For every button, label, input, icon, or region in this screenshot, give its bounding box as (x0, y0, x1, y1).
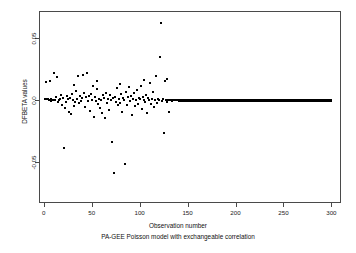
data-point (115, 101, 117, 103)
data-point (78, 102, 80, 104)
data-point (159, 56, 161, 58)
data-point (132, 98, 134, 100)
data-point (79, 95, 81, 97)
data-point (117, 104, 119, 106)
data-point (119, 83, 121, 85)
data-point (96, 80, 98, 82)
data-point (148, 99, 150, 101)
x-tick-mark (140, 203, 141, 207)
data-point (93, 116, 95, 118)
data-point (72, 99, 74, 101)
data-point (127, 96, 129, 98)
data-point (107, 98, 109, 100)
data-point (55, 96, 57, 98)
data-point (96, 88, 98, 90)
data-point (160, 22, 162, 24)
data-point (156, 102, 158, 104)
data-point (168, 111, 170, 113)
data-point (139, 98, 141, 100)
data-point (73, 84, 75, 86)
x-tick-label: 250 (270, 209, 296, 216)
data-point (109, 94, 111, 96)
data-point (151, 98, 153, 100)
data-point (90, 93, 92, 95)
data-point (111, 141, 113, 143)
data-point (137, 103, 139, 105)
data-point (67, 98, 69, 100)
data-point (140, 85, 142, 87)
data-point (125, 91, 127, 93)
y-axis-title: DFBETA values (21, 42, 28, 162)
x-tick-mark (92, 203, 93, 207)
data-point (63, 147, 65, 149)
data-point (145, 94, 147, 96)
data-point (66, 95, 68, 97)
data-point (131, 114, 133, 116)
data-point (123, 99, 125, 101)
data-point (143, 79, 145, 81)
data-point (45, 81, 47, 83)
data-point (153, 106, 155, 108)
data-point (114, 96, 116, 98)
data-point (92, 85, 94, 87)
data-point (70, 113, 72, 115)
data-point (149, 82, 151, 84)
data-point (121, 111, 123, 113)
data-point (120, 93, 122, 95)
data-point (134, 105, 136, 107)
data-point (150, 103, 152, 105)
data-point (53, 72, 55, 74)
data-point (75, 90, 77, 92)
data-point (166, 101, 168, 103)
plot-data-layer (39, 11, 341, 203)
data-point (110, 99, 112, 101)
data-point (163, 132, 165, 134)
data-point (158, 99, 160, 101)
y-tick-label: 0.0 (30, 87, 37, 113)
data-point (89, 110, 91, 112)
data-point (91, 99, 93, 101)
data-point (136, 89, 138, 91)
data-point (100, 99, 102, 101)
data-point (81, 97, 83, 99)
x-tick-mark (188, 203, 189, 207)
x-tick-mark (283, 203, 284, 207)
data-point (141, 108, 143, 110)
data-point (108, 109, 110, 111)
data-point (105, 92, 107, 94)
data-point (116, 87, 118, 89)
data-point (166, 78, 168, 80)
data-point (146, 112, 148, 114)
data-point (61, 104, 63, 106)
data-point (101, 112, 103, 114)
data-point (74, 101, 76, 103)
y-tick-label: 0.05 (30, 25, 37, 51)
x-tick-mark (44, 203, 45, 207)
data-point (104, 117, 106, 119)
data-point (152, 91, 154, 93)
data-point (99, 107, 101, 109)
data-point (80, 100, 82, 102)
data-point (87, 100, 89, 102)
data-point (69, 97, 71, 99)
data-point (135, 99, 137, 101)
data-point (154, 99, 156, 101)
data-point (62, 97, 64, 99)
x-tick-label: 200 (223, 209, 249, 216)
x-tick-label: 50 (79, 209, 105, 216)
data-point (86, 72, 88, 74)
dfbeta-scatter-figure: 0501001502002503000.050.0-0.05 Observati… (0, 0, 356, 253)
data-point (130, 95, 132, 97)
data-point (77, 75, 79, 77)
data-point (82, 74, 84, 76)
x-tick-label: 150 (175, 209, 201, 216)
data-point (144, 101, 146, 103)
data-point (76, 98, 78, 100)
data-point (49, 80, 51, 82)
data-point (162, 98, 164, 100)
x-tick-label: 300 (318, 209, 344, 216)
zero-run-line (178, 99, 332, 101)
x-tick-label: 0 (31, 209, 57, 216)
data-point (73, 105, 75, 107)
y-tick-label: -0.05 (30, 149, 37, 175)
